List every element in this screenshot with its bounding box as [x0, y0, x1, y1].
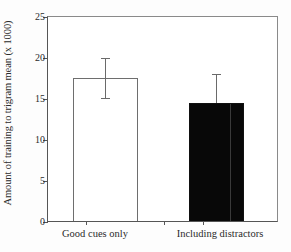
- bar-good-cues-only[interactable]: [73, 78, 138, 221]
- y-tick-label: 10: [35, 133, 45, 146]
- error-bar-cap-top: [101, 58, 110, 59]
- error-bar-stem: [105, 58, 106, 99]
- plot-area: 0 5 10 15 20 25: [47, 16, 278, 222]
- y-tick-label: 15: [35, 92, 45, 105]
- x-category-label-including-distractors: Including distractors: [155, 228, 285, 239]
- y-axis-title: Amount of training to trigram mean (x 10…: [2, 2, 16, 224]
- bar-including-distractors[interactable]: [189, 103, 244, 221]
- y-tick-label: 20: [35, 51, 45, 64]
- error-bar-cap-top: [212, 74, 221, 75]
- x-tick-mark: [164, 221, 165, 225]
- x-tick-mark: [203, 221, 204, 225]
- error-bar-stem: [216, 74, 217, 103]
- y-tick-label: 25: [35, 10, 45, 23]
- x-tick-mark: [86, 221, 87, 225]
- x-category-label-good-cues-only: Good cues only: [40, 228, 150, 239]
- error-bar-cap-bottom: [101, 98, 110, 99]
- bar-seam-artifact: [230, 104, 231, 221]
- y-tick-label: 0: [40, 215, 45, 228]
- y-tick-label: 5: [40, 174, 45, 187]
- figure-canvas: Amount of training to trigram mean (x 10…: [0, 0, 291, 252]
